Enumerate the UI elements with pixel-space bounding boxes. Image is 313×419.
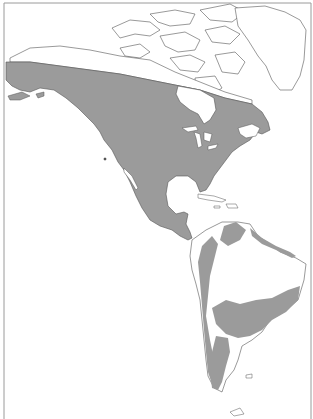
range-map	[0, 0, 313, 419]
map-frame	[0, 0, 313, 419]
greenland	[235, 6, 306, 90]
caribbean-islands	[198, 194, 238, 208]
north-america-range	[6, 62, 270, 240]
alaska-peninsula	[8, 92, 44, 100]
